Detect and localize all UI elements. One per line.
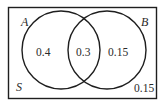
- a-only-value: 0.4: [36, 46, 51, 58]
- intersection-value: 0.3: [76, 46, 91, 58]
- venn-diagram: A B S 0.4 0.3 0.15 0.15: [0, 0, 164, 103]
- set-b-label: B: [141, 15, 149, 29]
- b-only-value: 0.15: [108, 46, 128, 58]
- universe-label: S: [16, 80, 22, 94]
- set-a-label: A: [20, 15, 29, 29]
- outside-value: 0.15: [134, 82, 154, 94]
